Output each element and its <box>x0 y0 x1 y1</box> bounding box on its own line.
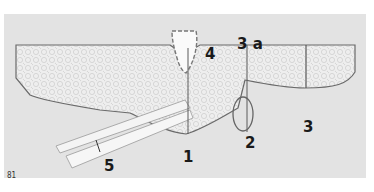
highlight-oval <box>233 97 253 131</box>
callout-4: 4 <box>205 47 215 62</box>
callout-5: 5 <box>104 159 114 174</box>
callout-3a: 3 a <box>237 37 263 52</box>
callout-3: 3 <box>303 120 313 135</box>
callout-1: 1 <box>183 150 193 165</box>
callout-2: 2 <box>245 136 255 151</box>
figure-number: 81 <box>7 172 16 180</box>
